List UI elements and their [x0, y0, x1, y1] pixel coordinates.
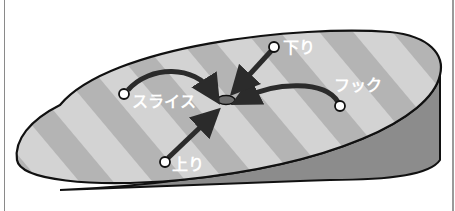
slice-ball-icon [119, 89, 129, 99]
uphill-ball-icon [160, 157, 170, 167]
hook-label: フック [334, 76, 382, 95]
green-diagram: スライス フック 下り 上り [0, 0, 455, 211]
uphill-label: 上り [172, 155, 204, 174]
hole-icon [217, 96, 235, 105]
slice-label: スライス [132, 92, 196, 111]
downhill-label: 下り [283, 38, 315, 57]
downhill-ball-icon [269, 42, 279, 52]
hook-ball-icon [335, 101, 345, 111]
